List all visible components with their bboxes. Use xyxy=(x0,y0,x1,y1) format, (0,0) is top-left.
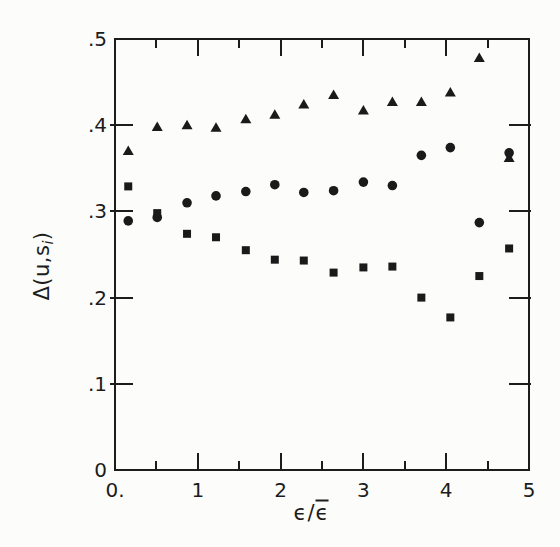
data-point-circle-series xyxy=(123,216,133,226)
scatter-figure: 0.123450.1.2.3.4.5 Δ(u,si) ϵ/ϵ xyxy=(0,0,560,547)
x-tick-label: 1 xyxy=(191,478,204,502)
data-point-triangle-series xyxy=(123,146,134,156)
data-point-square-series xyxy=(124,182,132,190)
y-tick-label: .5 xyxy=(88,27,107,51)
data-point-triangle-series xyxy=(416,96,427,106)
data-point-square-series xyxy=(153,209,161,217)
data-point-square-series xyxy=(212,233,220,241)
data-point-square-series xyxy=(271,256,279,264)
y-tick-label: .1 xyxy=(88,372,107,396)
data-point-triangle-series xyxy=(445,87,456,97)
y-axis-label-close: ) xyxy=(30,231,54,240)
data-point-triangle-series xyxy=(358,105,369,115)
x-axis-label-epsilon-bar: ϵ xyxy=(316,500,329,524)
data-point-square-series xyxy=(475,272,483,280)
axis-box xyxy=(115,39,529,470)
data-point-square-series xyxy=(242,246,250,254)
x-tick-label: 4 xyxy=(440,478,453,502)
x-tick-label: 2 xyxy=(274,478,287,502)
data-point-triangle-series xyxy=(240,114,251,124)
plot-canvas: 0.123450.1.2.3.4.5 xyxy=(0,0,560,547)
data-point-triangle-series xyxy=(211,122,222,131)
x-axis-label-epsilon: ϵ xyxy=(294,501,307,525)
data-point-circle-series xyxy=(417,151,427,161)
data-point-circle-series xyxy=(211,191,221,201)
y-tick-label: .4 xyxy=(88,113,107,137)
data-point-square-series xyxy=(300,257,308,265)
data-point-square-series xyxy=(388,263,396,271)
data-point-circle-series xyxy=(388,181,398,191)
data-point-circle-series xyxy=(329,186,339,196)
x-axis-label: ϵ/ϵ xyxy=(294,500,329,525)
data-point-triangle-series xyxy=(387,96,398,106)
y-axis-label-text: Δ(u,s xyxy=(30,245,54,301)
data-point-triangle-series xyxy=(152,121,163,130)
data-point-triangle-series xyxy=(298,99,309,109)
data-point-circle-series xyxy=(504,148,514,158)
x-tick-label: 5 xyxy=(523,478,536,502)
x-tick-label: 3 xyxy=(357,478,370,502)
data-point-square-series xyxy=(183,230,191,238)
y-axis-label-subscript: i xyxy=(40,240,56,244)
y-tick-label: .3 xyxy=(88,199,107,223)
data-point-circle-series xyxy=(475,218,485,228)
data-point-square-series xyxy=(359,263,367,271)
data-point-circle-series xyxy=(359,177,369,187)
data-point-square-series xyxy=(417,294,425,302)
data-point-circle-series xyxy=(241,187,251,197)
x-axis-label-slash: / xyxy=(306,501,315,525)
data-point-triangle-series xyxy=(328,90,339,100)
data-point-circle-series xyxy=(446,143,456,153)
data-point-square-series xyxy=(446,313,454,321)
data-point-triangle-series xyxy=(269,109,280,119)
data-point-circle-series xyxy=(270,180,280,190)
data-point-circle-series xyxy=(182,198,192,208)
data-point-triangle-series xyxy=(182,120,193,130)
y-axis-label: Δ(u,si) xyxy=(30,231,54,300)
data-point-circle-series xyxy=(299,188,309,198)
data-point-triangle-series xyxy=(474,52,485,62)
data-point-square-series xyxy=(505,244,513,252)
data-point-square-series xyxy=(330,269,338,277)
x-tick-label: 0. xyxy=(105,478,124,502)
y-tick-label: 0 xyxy=(94,458,107,482)
y-tick-label: .2 xyxy=(88,286,107,310)
